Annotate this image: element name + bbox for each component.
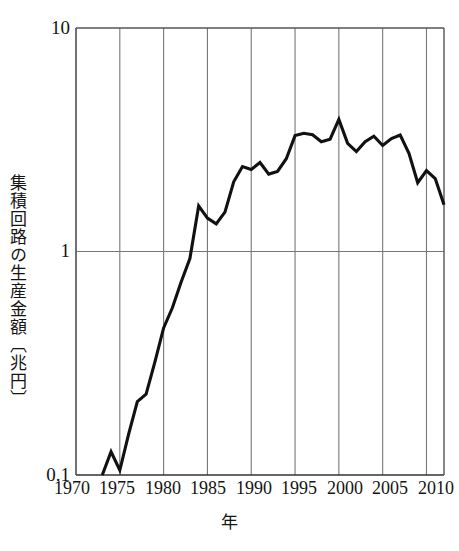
data-line-series-0 <box>102 119 444 475</box>
grid-lines <box>76 28 444 475</box>
plot-canvas <box>0 0 459 551</box>
chart-figure: 集積回路の生産金額〔兆円〕 10 1 0.1 1970 1975 1980 19… <box>0 0 459 551</box>
